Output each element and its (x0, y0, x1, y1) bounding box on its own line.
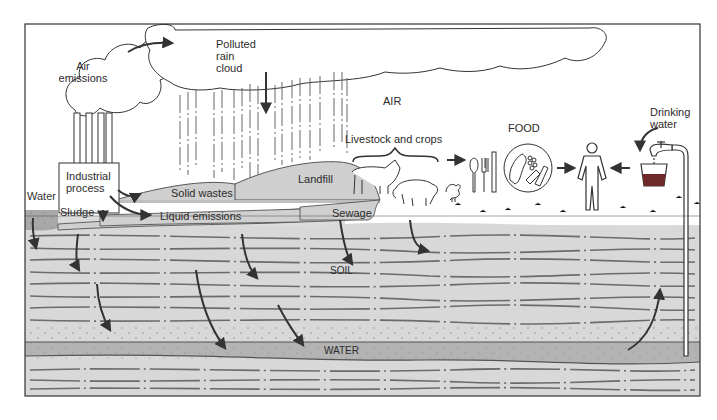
label-industrial-process: Industrial process (66, 170, 111, 194)
label-industrial-line1: Industrial (66, 170, 111, 182)
label-cloud-line2: rain (216, 50, 256, 62)
label-polluted-rain-cloud: Polluted rain cloud (216, 38, 256, 74)
label-industrial-line2: process (66, 182, 111, 194)
label-livestock-and-crops: Livestock and crops (345, 133, 442, 145)
soil-region (25, 200, 700, 396)
label-air-line2: emissions (58, 72, 108, 84)
label-liquid-emissions: Liquid emissions (160, 210, 241, 222)
label-cloud-line3: cloud (216, 62, 256, 74)
label-food: FOOD (508, 122, 540, 134)
label-soil-region: SOIL (330, 265, 353, 277)
groundwater-band (25, 342, 700, 364)
label-drinking-line1: Drinking (650, 106, 690, 118)
label-sludge: Sludge (60, 206, 94, 218)
label-air-line1: Air (58, 60, 108, 72)
label-solid-wastes: Solid wastes (171, 187, 233, 199)
label-drinking-line2: water (650, 118, 690, 130)
label-air-region: AIR (383, 95, 401, 107)
label-cloud-line1: Polluted (216, 38, 256, 50)
label-drinking-water: Drinking water (650, 106, 690, 130)
label-water-surface: Water (27, 190, 56, 202)
label-sewage: Sewage (332, 207, 372, 219)
label-water-region: WATER (324, 345, 359, 357)
label-air-emissions: Air emissions (58, 60, 108, 84)
label-landfill: Landfill (298, 173, 333, 185)
